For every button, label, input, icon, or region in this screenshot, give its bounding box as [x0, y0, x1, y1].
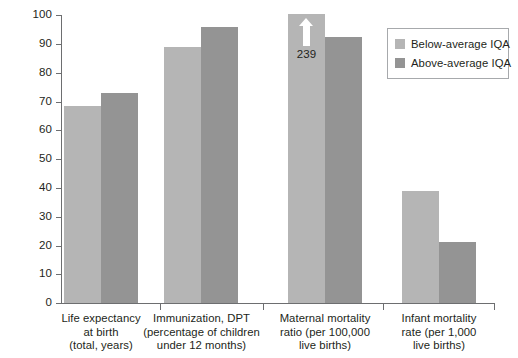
legend-label-above-average: Above-average IQA [411, 57, 511, 69]
bar-chart: 100 90 80 70 60 50 40 30 20 10 0 239 [0, 0, 518, 358]
category-line-3: live births) [384, 339, 494, 353]
category-line-1: Immunization, DPT [133, 312, 270, 326]
legend: Below-average IQA Above-average IQA [387, 28, 509, 79]
category-line-2: (percentage of children [133, 326, 270, 340]
bar-maternal-mortality-below-average: 239 [288, 14, 325, 303]
bar-maternal-mortality-above-average [325, 37, 362, 303]
bar-infant-mortality-below-average [402, 191, 439, 303]
category-line-3: live births) [268, 339, 382, 353]
category-line-2: rate (per 1,000 [384, 326, 494, 340]
x-axis-category-infant-mortality: Infant mortality rate (per 1,000 live bi… [384, 312, 494, 353]
legend-swatch-icon-below-average [395, 39, 405, 49]
legend-swatch-icon-above-average [395, 58, 405, 68]
legend-label-below-average: Below-average IQA [411, 38, 510, 50]
bar-infant-mortality-above-average [439, 242, 476, 303]
legend-item-above-average-iqa: Above-average IQA [395, 54, 501, 71]
bar-immunization-dpt-below-average [164, 47, 201, 303]
bar-immunization-dpt-above-average [201, 27, 238, 303]
bar-life-expectancy-above-average [101, 93, 138, 303]
category-line-1: Infant mortality [384, 312, 494, 326]
x-axis-category-immunization-dpt: Immunization, DPT (percentage of childre… [133, 312, 270, 353]
maternal-mortality-overflow-value: 239 [288, 48, 325, 60]
category-line-1: Maternal mortality [268, 312, 382, 326]
category-line-3: under 12 months) [133, 339, 270, 353]
legend-item-below-average-iqa: Below-average IQA [395, 35, 501, 52]
category-line-2: ratio (per 100,000 [268, 326, 382, 340]
x-axis-category-maternal-mortality: Maternal mortality ratio (per 100,000 li… [268, 312, 382, 353]
bar-life-expectancy-below-average [64, 106, 101, 303]
